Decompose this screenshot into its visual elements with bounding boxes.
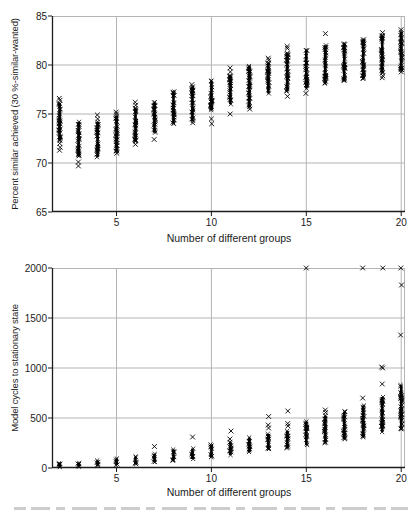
y-tick-label: 1500 <box>15 312 47 325</box>
y-tick-label: 75 <box>15 108 47 121</box>
two-panel-scatter-figure: Percent similar achieved (30 %-similar-w… <box>0 0 419 514</box>
y-tick-label: 70 <box>15 157 47 170</box>
cut-off-caption-remnant <box>14 507 408 510</box>
x-tick-label: 5 <box>105 472 129 485</box>
y-tick-label: 2000 <box>15 262 47 275</box>
y-tick-label: 0 <box>15 462 47 475</box>
y-tick-label: 80 <box>15 59 47 72</box>
x-tick-label: 20 <box>389 472 413 485</box>
x-tick-label: 10 <box>199 472 223 485</box>
y-tick-label: 65 <box>15 206 47 219</box>
bottom-scatter-plot-area <box>52 268 405 468</box>
x-tick-label: 20 <box>389 216 413 229</box>
y-tick-label: 500 <box>15 412 47 425</box>
y-tick-label: 1000 <box>15 362 47 375</box>
top-scatter-plot-area <box>52 16 405 212</box>
x-tick-label: 15 <box>294 472 318 485</box>
bottom-plot-x-axis-title: Number of different groups <box>167 486 292 498</box>
top-plot-x-axis-title: Number of different groups <box>167 232 292 244</box>
x-tick-label: 15 <box>294 216 318 229</box>
x-tick-label: 5 <box>105 216 129 229</box>
x-tick-label: 10 <box>199 216 223 229</box>
y-tick-label: 85 <box>15 10 47 23</box>
